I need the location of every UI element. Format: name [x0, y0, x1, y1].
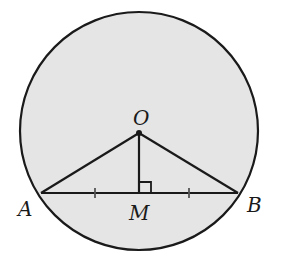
- label-o: O: [133, 106, 149, 130]
- label-b: B: [246, 193, 262, 217]
- circle-chord-diagram: O A B M: [0, 0, 282, 258]
- center-point-o: [136, 130, 142, 136]
- label-m: M: [128, 201, 150, 225]
- label-a: A: [16, 197, 32, 221]
